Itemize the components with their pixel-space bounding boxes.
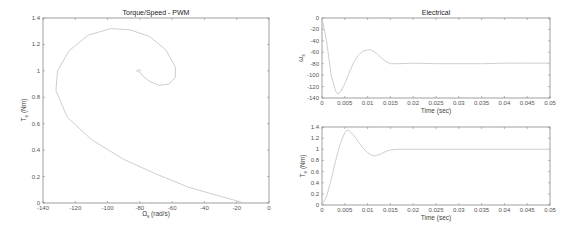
x-tick-label: 0.035 bbox=[474, 100, 490, 106]
y-tick-label: -100 bbox=[307, 72, 320, 78]
x-tick-label: -100 bbox=[102, 205, 115, 211]
torque-speed-chart: -140-120-100-80-60-40-20000.20.40.60.811… bbox=[32, 9, 272, 211]
y-tick-label: 0.8 bbox=[32, 94, 41, 100]
x-tick-label: 0.02 bbox=[407, 207, 419, 213]
y-tick-label: -20 bbox=[310, 26, 319, 32]
x-tick-label: 0.025 bbox=[428, 100, 444, 106]
x-tick-label: 0.035 bbox=[474, 207, 490, 213]
y-tick-label: 0.4 bbox=[32, 147, 41, 153]
chart-title: Torque/Speed - PWM bbox=[123, 9, 190, 17]
x-tick-label: -40 bbox=[200, 205, 209, 211]
y-tick-label: 0.6 bbox=[311, 169, 320, 175]
y-tick-label: -120 bbox=[307, 84, 320, 90]
y-axis-label: Te (Nm) bbox=[20, 99, 29, 122]
x-tick-label: 0.025 bbox=[428, 207, 444, 213]
y-tick-label: -80 bbox=[310, 61, 319, 67]
x-axis-label: Time (sec) bbox=[421, 107, 451, 115]
x-axis-label: Ωs (rad/s) bbox=[142, 210, 170, 219]
y-tick-label: 0.8 bbox=[311, 157, 320, 163]
x-tick-label: 0.03 bbox=[453, 207, 465, 213]
x-tick-label: 0.045 bbox=[520, 207, 536, 213]
y-tick-label: -40 bbox=[310, 38, 319, 44]
x-tick-label: 0.01 bbox=[362, 207, 374, 213]
x-tick-label: 0.005 bbox=[337, 100, 353, 106]
x-tick-label: 0.05 bbox=[544, 100, 556, 106]
y-axis-label: ωs bbox=[297, 54, 306, 62]
x-tick-label: 0.03 bbox=[453, 100, 465, 106]
x-tick-label: 0.005 bbox=[337, 207, 353, 213]
y-tick-label: 0 bbox=[316, 15, 320, 21]
y-tick-label: 0.2 bbox=[311, 191, 320, 197]
x-tick-label: 0.015 bbox=[383, 100, 399, 106]
y-tick-label: 1.4 bbox=[32, 15, 41, 21]
y-tick-label: 1.2 bbox=[311, 135, 320, 141]
x-tick-label: -20 bbox=[232, 205, 241, 211]
y-tick-label: 0.6 bbox=[32, 121, 41, 127]
x-tick-label: 0.05 bbox=[544, 207, 556, 213]
y-tick-label: 0.2 bbox=[32, 174, 41, 180]
y-tick-label: 1 bbox=[316, 146, 320, 152]
y-tick-label: 1 bbox=[37, 68, 41, 74]
x-tick-label: 0 bbox=[320, 100, 324, 106]
y-tick-label: 1.2 bbox=[32, 41, 41, 47]
y-tick-label: 0 bbox=[316, 202, 320, 208]
plot-area bbox=[43, 18, 269, 203]
x-tick-label: 0 bbox=[267, 205, 271, 211]
x-tick-label: 0.015 bbox=[383, 207, 399, 213]
x-tick-label: -120 bbox=[69, 205, 82, 211]
y-tick-label: -140 bbox=[307, 95, 320, 101]
chart-title: Electrical bbox=[422, 9, 451, 16]
x-tick-label: 0 bbox=[320, 207, 324, 213]
speed-time-chart: 00.0050.010.0150.020.0250.030.0350.040.0… bbox=[307, 9, 557, 106]
y-tick-label: -60 bbox=[310, 49, 319, 55]
y-tick-label: 1.4 bbox=[311, 124, 320, 130]
x-tick-label: 0.045 bbox=[520, 100, 536, 106]
x-tick-label: 0.01 bbox=[362, 100, 374, 106]
y-tick-label: 0.4 bbox=[311, 180, 320, 186]
x-tick-label: 0.02 bbox=[407, 100, 419, 106]
y-axis-label: Te (Nm) bbox=[299, 155, 308, 178]
figure-canvas: -140-120-100-80-60-40-20000.20.40.60.811… bbox=[0, 0, 579, 232]
torque-time-chart: 00.0050.010.0150.020.0250.030.0350.040.0… bbox=[311, 124, 557, 213]
x-tick-label: 0.04 bbox=[499, 207, 511, 213]
x-tick-label: 0.04 bbox=[499, 100, 511, 106]
x-axis-label: Time (sec) bbox=[421, 214, 451, 222]
